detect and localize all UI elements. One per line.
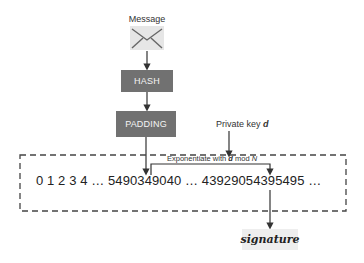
private-key-label: Private key d [216,119,269,129]
connector-lines [0,0,364,263]
message-label: Message [118,14,176,24]
private-key-prefix: Private key [216,119,263,129]
exponentiate-label: Exponentiate with d mod N [167,154,257,163]
exponentiate-mod: mod [233,154,252,163]
number-line: 0 1 2 3 4 … 5490349040 … 43929054395495 … [36,173,321,188]
exponentiate-prefix: Exponentiate with [167,154,228,163]
signature-box: signature [242,229,298,250]
private-key-var: d [263,119,269,129]
envelope-icon [130,26,164,50]
exponentiate-modulus: N [252,154,257,163]
padding-box: PADDING [116,111,176,137]
hash-box: HASH [121,70,173,92]
